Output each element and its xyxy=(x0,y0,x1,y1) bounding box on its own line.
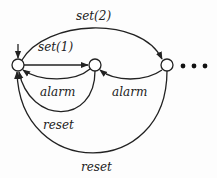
state-node-s0 xyxy=(12,59,24,71)
edge-label-alarm-s1-s0: alarm xyxy=(40,85,75,99)
edge-label-reset-s2-s0: reset xyxy=(81,160,112,174)
edge-label-set2: set(2) xyxy=(76,9,111,23)
edge-label-set1: set(1) xyxy=(38,40,73,54)
edge-reset-s2-s0 xyxy=(17,71,167,153)
state-diagram: set(1) set(2) alarm alarm reset reset xyxy=(0,0,217,178)
state-node-s2 xyxy=(161,59,173,71)
continuation-ellipsis xyxy=(181,64,208,69)
edge-alarm-s2-s1 xyxy=(100,70,162,79)
edge-label-alarm-s2-s1: alarm xyxy=(112,85,147,99)
state-node-s1 xyxy=(89,59,101,71)
edge-alarm-s1-s0 xyxy=(23,69,90,79)
edge-label-reset-s1-s0: reset xyxy=(43,118,74,132)
